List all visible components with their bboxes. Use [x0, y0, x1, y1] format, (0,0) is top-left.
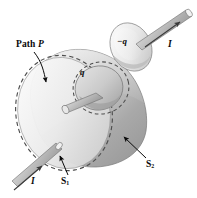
path-word: Path	[16, 39, 35, 49]
current-bottom-label: I	[31, 177, 35, 187]
path-p-label: Path P	[16, 40, 44, 50]
s1-subscript: 1	[66, 180, 69, 186]
s2-subscript: 2	[151, 163, 154, 169]
upper-wire-body	[136, 10, 192, 50]
s1-label: S1	[61, 177, 69, 187]
s2-label: S2	[146, 160, 154, 170]
current-top-label: I	[168, 40, 172, 50]
positive-charge-label: q	[80, 68, 85, 77]
figure-illustration	[0, 0, 197, 198]
upper-wire	[136, 8, 194, 50]
physics-figure: Path P −q I q S2 S1 I	[0, 0, 197, 198]
negative-charge-label: −q	[117, 37, 127, 46]
path-symbol: P	[38, 39, 44, 49]
